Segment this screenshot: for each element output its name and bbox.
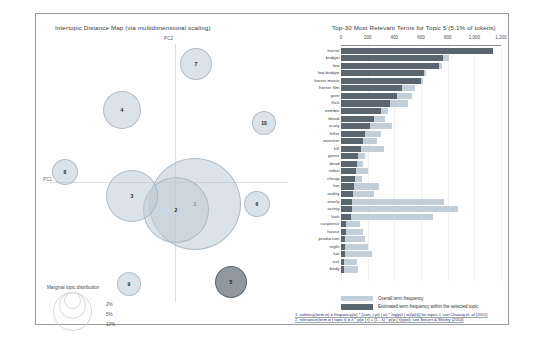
term-bar-row[interactable]: house — [294, 228, 509, 236]
intertopic-map-title: Intertopic Distance Map (via multidimens… — [55, 24, 211, 31]
bar-estimated-frequency — [341, 244, 345, 250]
term-label[interactable]: dead — [329, 161, 339, 166]
term-bar — [341, 123, 501, 129]
term-bar — [341, 176, 501, 182]
topic-bubble-8[interactable]: 8 — [52, 159, 78, 185]
term-label[interactable]: horror film — [319, 85, 339, 90]
term-label[interactable]: production — [318, 236, 339, 241]
bar-overall-frequency — [341, 206, 458, 212]
term-bar — [341, 85, 501, 91]
term-bar-row[interactable]: horror — [294, 47, 509, 55]
term-bar-row[interactable]: horror film — [294, 85, 509, 93]
term-bar-row[interactable]: kill — [294, 145, 509, 153]
term-label[interactable]: killer — [330, 131, 339, 136]
term-label[interactable]: gore — [330, 93, 339, 98]
term-bar — [341, 214, 501, 220]
term-label[interactable]: acting — [327, 206, 339, 211]
term-bar-row[interactable]: dead — [294, 160, 509, 168]
bar-overall-frequency — [341, 214, 433, 220]
footnotes: 1. saliency(term w) = frequency(w) * [su… — [295, 312, 488, 323]
term-label[interactable]: nudity — [327, 191, 339, 196]
legend-pct-10: 10% — [106, 322, 115, 327]
term-label[interactable]: video — [329, 168, 340, 173]
term-bar-row[interactable]: monster — [294, 138, 509, 146]
term-label[interactable]: flick — [332, 100, 340, 105]
term-bar — [341, 55, 501, 61]
bar-estimated-frequency — [341, 199, 352, 205]
term-bar-row[interactable]: scary — [294, 122, 509, 130]
term-label[interactable]: look — [331, 214, 339, 219]
term-bar-row[interactable]: cheap — [294, 175, 509, 183]
term-bar-row[interactable]: flick — [294, 100, 509, 108]
term-bar — [341, 116, 501, 122]
legend-swatch — [341, 304, 373, 310]
topic-bubble-label: 4 — [121, 107, 124, 113]
term-bar — [341, 259, 501, 265]
term-bar-row[interactable]: evil — [294, 258, 509, 266]
topic-bubble-label: 5 — [230, 279, 233, 285]
term-label[interactable]: horror — [327, 48, 339, 53]
term-bar — [341, 100, 501, 106]
tick-label: 200 — [364, 35, 372, 40]
term-bar-row[interactable]: killer — [294, 130, 509, 138]
term-label[interactable]: overly — [327, 199, 339, 204]
term-bar-row[interactable]: acting — [294, 205, 509, 213]
term-label[interactable]: house — [327, 229, 339, 234]
topic-bubble-3[interactable]: 3 — [106, 170, 158, 222]
topic-bubble-6[interactable]: 6 — [244, 191, 270, 217]
term-bar-row[interactable]: nudity — [294, 190, 509, 198]
term-label[interactable]: fan — [333, 183, 339, 188]
term-bar-row[interactable]: budget — [294, 55, 509, 63]
term-bar-row[interactable]: zombie — [294, 107, 509, 115]
term-bar-row[interactable]: production — [294, 236, 509, 244]
term-bar-row[interactable]: look — [294, 213, 509, 221]
bar-estimated-frequency — [341, 161, 357, 167]
term-bar-row[interactable]: blood — [294, 115, 509, 123]
topic-bubble-10[interactable]: 10 — [252, 111, 276, 135]
term-bar-row[interactable]: video — [294, 168, 509, 176]
term-bar-row[interactable]: horror movie — [294, 77, 509, 85]
term-label[interactable]: low budget — [318, 70, 340, 75]
term-bar — [341, 183, 501, 189]
term-bar-row[interactable]: fun — [294, 251, 509, 259]
footnote[interactable]: 2. relevance(term w | topic t) = λ * p(w… — [295, 317, 488, 322]
term-label[interactable]: blood — [328, 116, 339, 121]
term-label[interactable]: fun — [333, 251, 339, 256]
bar-overall-frequency — [341, 251, 372, 257]
term-label[interactable]: body — [330, 266, 340, 271]
term-bar — [341, 153, 501, 159]
term-label[interactable]: monster — [323, 138, 339, 143]
term-bar-row[interactable]: body — [294, 266, 509, 274]
term-label[interactable]: low — [333, 63, 340, 68]
bar-estimated-frequency — [341, 93, 397, 99]
term-label[interactable]: budget — [326, 55, 340, 60]
legend-label: Overall term frequency — [378, 296, 424, 301]
topic-bubble-5[interactable]: 5 — [215, 266, 247, 298]
term-label[interactable]: night — [330, 244, 340, 249]
term-bar-row[interactable]: suspense — [294, 221, 509, 229]
topic-bubble-4[interactable]: 4 — [103, 91, 141, 129]
term-label[interactable]: zombie — [325, 108, 339, 113]
term-label[interactable]: suspense — [320, 221, 339, 226]
tick-label: 400 — [391, 35, 399, 40]
term-bar-row[interactable]: gore — [294, 92, 509, 100]
term-bar-row[interactable]: low budget — [294, 70, 509, 78]
tick-label: 1,000 — [469, 35, 480, 40]
term-label[interactable]: scary — [329, 123, 340, 128]
term-label[interactable]: evil — [333, 259, 340, 264]
term-bar-row[interactable]: night — [294, 243, 509, 251]
term-label[interactable]: genre — [328, 153, 339, 158]
bar-estimated-frequency — [341, 108, 381, 114]
marginal-topic-distribution-legend: Marginal topic distribution 2% 5% 10% — [46, 272, 174, 322]
term-bar-row[interactable]: fan — [294, 183, 509, 191]
term-bar-row[interactable]: genre — [294, 153, 509, 161]
term-bar — [341, 131, 501, 137]
topic-bubble-7[interactable]: 7 — [180, 48, 212, 80]
term-bar-row[interactable]: overly — [294, 198, 509, 206]
term-label[interactable]: horror movie — [314, 78, 339, 83]
term-label[interactable]: kill — [334, 146, 339, 151]
term-bar-row[interactable]: low — [294, 62, 509, 70]
term-label[interactable]: cheap — [327, 176, 339, 181]
bar-estimated-frequency — [341, 191, 353, 197]
bar-estimated-frequency — [341, 183, 354, 189]
